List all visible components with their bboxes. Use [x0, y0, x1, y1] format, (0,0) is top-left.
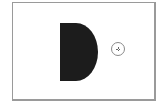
- crosshair-vertical: [118, 47, 119, 51]
- crosshair-target-icon[interactable]: [111, 42, 125, 56]
